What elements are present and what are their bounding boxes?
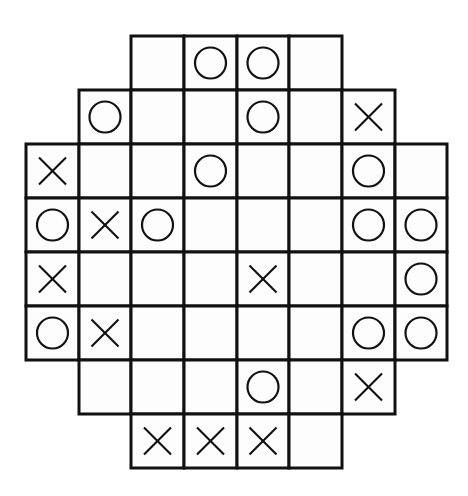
grid-cell-r3-c5[interactable] [289, 198, 342, 252]
grid-cell-r6-c6[interactable] [342, 360, 395, 414]
grid-cell-r7-c4[interactable] [237, 414, 289, 468]
grid-cell-r4-c1[interactable] [79, 252, 131, 306]
grid-cell-r5-c5[interactable] [289, 306, 342, 360]
o-mark-icon [37, 318, 68, 349]
grid-cell-r4-c4[interactable] [237, 252, 289, 306]
grid-cell-r5-c0[interactable] [26, 306, 79, 360]
o-mark-icon [37, 210, 68, 241]
o-mark-icon [353, 210, 384, 241]
grid-cell-r1-c4[interactable] [237, 90, 289, 144]
grid-cell-r1-c2[interactable] [131, 90, 184, 144]
grid-cell-r1-c6[interactable] [342, 90, 395, 144]
grid-cell-r5-c3[interactable] [184, 306, 237, 360]
x-mark-icon [92, 320, 119, 347]
grid-cell-r3-c6[interactable] [342, 198, 395, 252]
grid-cell-r0-c2[interactable] [131, 36, 184, 90]
grid-cell-r2-c3[interactable] [184, 144, 237, 198]
grid-cell-r6-c1[interactable] [79, 360, 131, 414]
grid-cell-r3-c1[interactable] [79, 198, 131, 252]
o-mark-icon [353, 318, 384, 349]
o-mark-icon [142, 210, 173, 241]
grid-cell-r6-c2[interactable] [131, 360, 184, 414]
o-mark-icon [353, 156, 384, 187]
x-mark-icon [355, 374, 382, 401]
x-mark-icon [250, 266, 277, 293]
grid-cell-r5-c6[interactable] [342, 306, 395, 360]
o-mark-icon [248, 372, 279, 403]
grid-cell-r4-c0[interactable] [26, 252, 79, 306]
grid-cell-r5-c7[interactable] [395, 306, 447, 360]
o-mark-icon [248, 48, 279, 79]
x-mark-icon [144, 428, 171, 455]
grid-cell-r2-c6[interactable] [342, 144, 395, 198]
grid-cell-r2-c0[interactable] [26, 144, 79, 198]
grid-cell-r3-c3[interactable] [184, 198, 237, 252]
grid-cell-r3-c2[interactable] [131, 198, 184, 252]
grid-cell-r4-c2[interactable] [131, 252, 184, 306]
grid-cell-r3-c4[interactable] [237, 198, 289, 252]
grid-cell-r7-c2[interactable] [131, 414, 184, 468]
grid-cell-r7-c3[interactable] [184, 414, 237, 468]
o-mark-icon [248, 102, 279, 133]
grid-cell-r6-c3[interactable] [184, 360, 237, 414]
x-mark-icon [39, 266, 66, 293]
x-mark-icon [92, 212, 119, 239]
grid-cell-r5-c4[interactable] [237, 306, 289, 360]
o-mark-icon [406, 264, 437, 295]
grid-cell-r5-c2[interactable] [131, 306, 184, 360]
grid-cell-r2-c7[interactable] [395, 144, 447, 198]
grid-cell-r3-c0[interactable] [26, 198, 79, 252]
grid-cell-r0-c3[interactable] [184, 36, 237, 90]
grid-cell-r1-c5[interactable] [289, 90, 342, 144]
x-mark-icon [197, 428, 224, 455]
puzzle-board [0, 0, 468, 496]
grid-cell-r4-c7[interactable] [395, 252, 447, 306]
grid-cell-r0-c4[interactable] [237, 36, 289, 90]
grid-cell-r2-c5[interactable] [289, 144, 342, 198]
grid-cell-r2-c4[interactable] [237, 144, 289, 198]
grid-cell-r1-c3[interactable] [184, 90, 237, 144]
grid-cell-r2-c1[interactable] [79, 144, 131, 198]
x-mark-icon [355, 104, 382, 131]
grid-cell-r5-c1[interactable] [79, 306, 131, 360]
grid-cell-r0-c5[interactable] [289, 36, 342, 90]
grid-cell-r6-c5[interactable] [289, 360, 342, 414]
o-mark-icon [406, 318, 437, 349]
o-mark-icon [195, 156, 226, 187]
grid-cell-r7-c5[interactable] [289, 414, 342, 468]
o-mark-icon [90, 102, 121, 133]
x-mark-icon [39, 158, 66, 185]
grid-cell-r1-c1[interactable] [79, 90, 131, 144]
grid-cell-r4-c6[interactable] [342, 252, 395, 306]
grid-cell-r4-c3[interactable] [184, 252, 237, 306]
grid-cell-r4-c5[interactable] [289, 252, 342, 306]
grid-cell-r6-c4[interactable] [237, 360, 289, 414]
o-mark-icon [195, 48, 226, 79]
grid-cell-r2-c2[interactable] [131, 144, 184, 198]
o-mark-icon [406, 210, 437, 241]
grid-cell-r3-c7[interactable] [395, 198, 447, 252]
x-mark-icon [250, 428, 277, 455]
